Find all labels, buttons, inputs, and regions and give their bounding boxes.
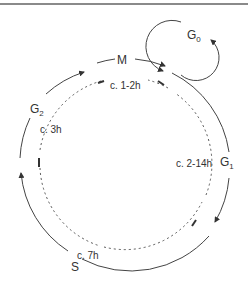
label-g1: G1 <box>220 155 234 171</box>
label-s: S <box>71 260 79 274</box>
arc-g2-upper <box>46 72 84 94</box>
cell-cycle-diagram: M G1 S G2 G0 c. 1-2h c. 2-14h c. 7h c. 3… <box>0 0 248 292</box>
duration-g2: c. 3h <box>40 124 62 135</box>
arc-s <box>82 236 209 271</box>
duration-g1: c. 2-14h <box>176 158 212 169</box>
arc-m-left <box>97 59 115 63</box>
arc-s-left <box>21 173 68 251</box>
label-g2: G2 <box>30 102 44 118</box>
marker-m-start <box>98 81 104 83</box>
duration-m: c. 1-2h <box>110 80 141 91</box>
label-g0: G0 <box>187 28 201 44</box>
marker-m-end <box>158 81 164 85</box>
phase-boundary-markers <box>39 81 196 226</box>
label-m: M <box>117 53 127 67</box>
g0-loop <box>146 20 219 80</box>
arc-g1-lower <box>215 178 229 222</box>
arc-g2 <box>20 118 30 158</box>
arc-g1-upper <box>172 73 229 152</box>
duration-s: c. 7h <box>77 250 99 261</box>
marker-g1-end <box>192 220 196 226</box>
